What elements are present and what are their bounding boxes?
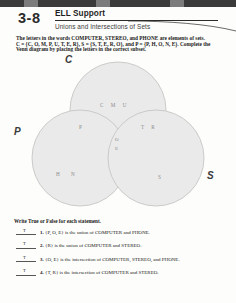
scan-notch: [96, 0, 110, 7]
item-statement: {P, O, E} is the union of COMPUTER and P…: [45, 230, 150, 235]
instructions-paragraph: The letters in the words COMPUTER, STERE…: [16, 36, 222, 53]
venn-diagram: C P S C M U P T R O E H N S: [14, 58, 222, 213]
lesson-number: 3-8: [18, 10, 40, 26]
venn-label-s: S: [207, 170, 214, 181]
venn-region-s-only: S: [158, 174, 161, 180]
venn-region-p-only: H N: [56, 171, 80, 177]
answer-blank[interactable]: [16, 234, 36, 235]
true-false-item: T 2. {R} is the union of COMPUTER and ST…: [14, 242, 226, 256]
page-subtitle: Unions and Intersections of Sets: [55, 23, 218, 30]
answer-value: T: [23, 241, 26, 246]
answer-blank[interactable]: [16, 248, 36, 249]
worksheet-header: 3-8 ELL Support Unions and Intersections…: [18, 9, 218, 35]
answer-blank[interactable]: [16, 275, 36, 276]
instructions-line: Venn diagram by placing the letters in t…: [16, 47, 222, 53]
scan-edge-band: [0, 0, 236, 7]
true-false-heading: Write True or False for each statement.: [14, 218, 101, 224]
item-statement: {T, R} is the intersection of COMPUTER a…: [45, 270, 159, 275]
page-title: ELL Support: [55, 9, 218, 19]
venn-label-p: P: [14, 126, 21, 137]
title-divider: [55, 20, 218, 21]
scan-notch: [24, 0, 38, 7]
venn-region-center-lower: E: [115, 146, 118, 151]
item-number: 2.: [40, 243, 44, 248]
true-false-list: T 1. {P, O, E} is the union of COMPUTER …: [14, 228, 226, 282]
title-block: ELL Support Unions and Intersections of …: [55, 9, 218, 30]
venn-region-center: O: [115, 137, 119, 142]
venn-region-c-and-s: T R: [141, 124, 158, 130]
item-statement: {O, E} is the intersection of COMPUTER, …: [45, 257, 180, 262]
true-false-item: T 3. {O, E} is the intersection of COMPU…: [14, 255, 226, 269]
true-false-item: T 4. {T, R} is the intersection of COMPU…: [14, 269, 226, 283]
true-false-item: T 1. {P, O, E} is the union of COMPUTER …: [14, 228, 226, 242]
answer-value: T: [23, 268, 26, 273]
scan-notch: [170, 0, 184, 7]
venn-region-c-and-p: P: [79, 124, 82, 130]
statement-text: 4. {T, R} is the intersection of COMPUTE…: [40, 270, 159, 275]
venn-region-c-only: C M U: [100, 102, 129, 108]
statement-text: 2. {R} is the union of COMPUTER and STER…: [40, 243, 141, 248]
answer-value: T: [23, 228, 26, 233]
answer-blank[interactable]: [16, 261, 36, 262]
worksheet-page: 3-8 ELL Support Unions and Intersections…: [0, 0, 236, 303]
item-number: 3.: [40, 257, 44, 262]
statement-text: 3. {O, E} is the intersection of COMPUTE…: [40, 257, 180, 262]
item-statement: {R} is the union of COMPUTER and STEREO.: [45, 243, 141, 248]
item-number: 4.: [40, 270, 44, 275]
venn-label-c: C: [65, 54, 72, 65]
statement-text: 1. {P, O, E} is the union of COMPUTER an…: [40, 230, 150, 235]
item-number: 1.: [40, 230, 44, 235]
answer-value: T: [23, 255, 26, 260]
